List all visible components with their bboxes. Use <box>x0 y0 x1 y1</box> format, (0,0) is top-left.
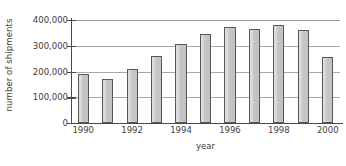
x-tick-label: 1994 <box>170 125 192 135</box>
y-axis-tick-labels: 0100,000200,000300,000400,000 <box>16 0 68 166</box>
bar <box>151 56 162 123</box>
x-tick-label: 1996 <box>219 125 241 135</box>
bar-chart-figure: number of shipments 0100,000200,000300,0… <box>0 0 346 166</box>
bar <box>78 74 89 123</box>
bar <box>224 27 235 123</box>
x-tick-label: 1992 <box>121 125 143 135</box>
y-tick-label: 200,000 <box>16 67 68 76</box>
x-tick-label: 1998 <box>268 125 290 135</box>
bar <box>273 25 284 123</box>
bar <box>298 30 309 123</box>
x-tick-label: 2000 <box>317 125 339 135</box>
y-axis-line <box>71 18 72 124</box>
x-tick-label: 1990 <box>72 125 94 135</box>
x-axis-line <box>67 123 343 124</box>
bar <box>322 57 333 123</box>
bar <box>249 29 260 124</box>
y-tick-label: 100,000 <box>16 93 68 102</box>
y-tick-label: 300,000 <box>16 42 68 51</box>
bar <box>175 44 186 123</box>
bar <box>200 34 211 123</box>
y-axis-title-text: number of shipments <box>4 19 14 112</box>
bar <box>102 79 113 123</box>
y-tick-label: 0 <box>16 119 68 128</box>
bars-container <box>71 20 340 123</box>
plot-area <box>71 20 340 123</box>
bar <box>127 69 138 123</box>
x-axis-title: year <box>71 141 340 151</box>
x-axis-tick-labels: 199019921994199619982000 <box>71 125 340 139</box>
y-tick-label: 400,000 <box>16 16 68 25</box>
